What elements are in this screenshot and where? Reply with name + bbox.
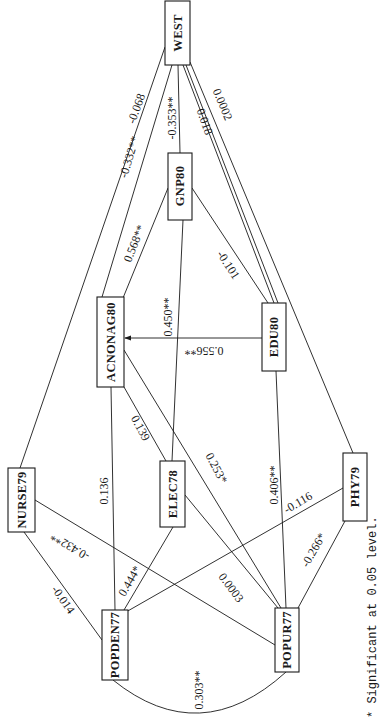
node-acnonag80: ACNONAG80 (97, 297, 124, 387)
label-phy79-popur77: -0.266* (298, 530, 329, 569)
node-phy79: PHY79 (343, 453, 367, 521)
node-label-gnp80: GNP80 (173, 166, 187, 206)
label-west-gnp80: -0.353** (165, 97, 179, 140)
edge-west-nurse79 (20, 47, 165, 468)
node-label-popden77: POPDEN77 (108, 612, 122, 678)
edge-west-phy79 (190, 62, 353, 453)
label-acnonag80-popden77: 0.136 (97, 478, 111, 505)
node-label-acnonag80: ACNONAG80 (104, 302, 118, 382)
node-elec78: ELEC78 (160, 461, 185, 527)
label-west-edu80: 0.018 (194, 107, 216, 137)
label-edu80-acnonag80: 0.556** (185, 344, 224, 358)
node-nurse79: NURSE79 (8, 468, 35, 532)
node-label-popur77: POPUR77 (280, 611, 294, 669)
node-gnp80: GNP80 (168, 153, 192, 220)
edge-acnonag80-popden77 (111, 387, 115, 610)
node-popur77: POPUR77 (275, 608, 299, 672)
edge-nurse79-popur77 (35, 500, 275, 645)
node-label-west: WEST (171, 14, 185, 52)
label-acnonag80-popur77: 0.253* (203, 450, 231, 486)
label-nurse79-popden77: -0.014 (49, 583, 78, 616)
label-nurse79-popur77: -0.432** (48, 529, 92, 563)
edge-gnp80-edu80 (192, 188, 268, 303)
label-acnonag80-elec78: 0.139 (128, 413, 153, 443)
label-west-nurse79: -0.068 (124, 92, 148, 126)
node-west: WEST (165, 1, 190, 65)
node-popden77: POPDEN77 (102, 610, 128, 680)
label-elec78-popur77: 0.0003 (216, 570, 247, 605)
label-edu80-popur77: 0.406** (267, 466, 281, 505)
label-elec78-popden77: 0.444* (115, 563, 144, 599)
label-gnp80-elec78: 0.450** (161, 298, 175, 337)
label-west-acnonag80: -0.332** (116, 134, 142, 179)
label-west-phy79: 0.0002 (210, 87, 236, 123)
node-label-edu80: EDU80 (267, 317, 281, 357)
node-label-nurse79: NURSE79 (15, 472, 29, 529)
label-phy79-popden77: -0.116 (281, 489, 314, 516)
path-diagram: -0.068 -0.332** -0.353** 0.018 0.0002 0.… (0, 0, 383, 722)
label-popden77-popur77: 0.303** (192, 671, 206, 710)
significance-legend: * Significant at 0.05 level. (366, 516, 380, 718)
label-gnp80-acnonag80: 0.568** (120, 223, 148, 264)
edge-gnp80-elec78 (172, 220, 183, 461)
node-label-phy79: PHY79 (348, 467, 362, 507)
node-label-elec78: ELEC78 (166, 470, 180, 518)
node-edu80: EDU80 (262, 303, 286, 371)
label-gnp80-edu80: -0.101 (214, 248, 243, 282)
